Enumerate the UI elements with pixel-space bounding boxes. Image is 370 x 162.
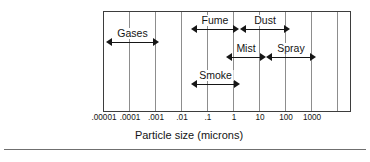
range-line-dust bbox=[244, 29, 286, 30]
arrow-head-right-smoke bbox=[234, 80, 240, 88]
range-label-mist: Mist bbox=[234, 43, 257, 54]
chart-plot-frame: Fume Dust Gases Mist Spray bbox=[103, 11, 351, 112]
gridline-001 bbox=[155, 12, 156, 111]
range-label-smoke: Smoke bbox=[197, 70, 234, 81]
range-bar-smoke: Smoke bbox=[191, 80, 240, 89]
tick-label-00001: .00001 bbox=[91, 113, 116, 123]
tick-label-1000: 1000 bbox=[303, 113, 321, 123]
tick-label-10: 10 bbox=[255, 113, 264, 123]
range-line-smoke bbox=[195, 84, 236, 85]
range-bar-dust: Dust bbox=[240, 25, 290, 34]
tick-label-0001: .0001 bbox=[120, 113, 141, 123]
range-bar-spray: Spray bbox=[266, 53, 316, 62]
axis-title: Particle size (microns) bbox=[0, 129, 370, 142]
range-line-mist bbox=[230, 57, 262, 58]
range-bar-fume: Fume bbox=[191, 25, 239, 34]
bottom-divider bbox=[4, 149, 366, 150]
range-line-fume bbox=[195, 29, 235, 30]
tick-label-100: 100 bbox=[279, 113, 293, 123]
axis-title-text: Particle size (microns) bbox=[135, 129, 243, 142]
range-line-spray bbox=[270, 57, 312, 58]
gridline-01 bbox=[181, 12, 182, 111]
range-label-gases: Gases bbox=[115, 28, 149, 39]
tick-label-001: .001 bbox=[148, 113, 164, 123]
range-bar-gases: Gases bbox=[106, 38, 159, 47]
range-label-dust: Dust bbox=[252, 15, 278, 26]
range-label-spray: Spray bbox=[275, 43, 306, 54]
tick-label-point1: .1 bbox=[205, 113, 212, 123]
gridline-10000 bbox=[337, 12, 338, 111]
range-bar-mist: Mist bbox=[226, 53, 266, 62]
tick-label-01: .01 bbox=[176, 113, 187, 123]
range-line-gases bbox=[110, 42, 155, 43]
particle-size-chart-figure: Fume Dust Gases Mist Spray bbox=[0, 0, 370, 162]
arrow-head-right-gases bbox=[153, 38, 159, 46]
arrow-head-right-dust bbox=[284, 25, 290, 33]
arrow-head-right-spray bbox=[310, 53, 316, 61]
tick-label-1: 1 bbox=[232, 113, 237, 123]
arrow-head-right-fume bbox=[233, 25, 239, 33]
range-label-fume: Fume bbox=[200, 15, 231, 26]
